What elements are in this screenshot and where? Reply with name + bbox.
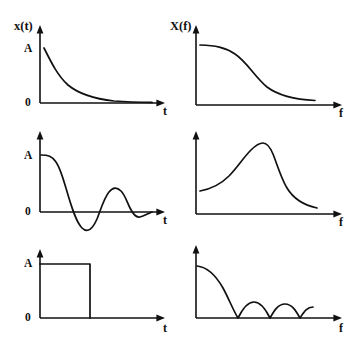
y-axis-arrow-icon — [37, 249, 44, 258]
panel-resonance-peak — [175, 116, 351, 234]
curve-rectangular-pulse — [40, 264, 90, 318]
ytick-label-amplitude-row3: A — [24, 258, 32, 270]
xaxis-label-t-row2: t — [163, 214, 167, 226]
curve-lorentzian-rolloff — [200, 45, 315, 101]
xaxis-label-f-row3: f — [339, 322, 343, 334]
panel-lorentzian-rolloff — [175, 0, 351, 116]
fourier-transform-pairs-figure: x(t) X(f) A 0 t f — [0, 0, 351, 349]
ytick-label-zero-row2: 0 — [25, 206, 31, 218]
ytick-label-amplitude-row1: A — [24, 43, 32, 55]
curve-damped-oscillation — [41, 155, 152, 230]
curve-resonance-peak — [200, 143, 317, 208]
xaxis-label-f-row2: f — [339, 216, 343, 228]
panel-rectangular-pulse — [0, 234, 175, 349]
ytick-label-zero-row1: 0 — [25, 97, 31, 109]
y-axis-arrow-icon — [37, 25, 44, 34]
panel-sinc-magnitude — [175, 234, 351, 349]
ytick-label-zero-row3: 0 — [25, 312, 31, 324]
xaxis-label-t-row3: t — [163, 322, 167, 334]
y-axis-arrow-icon — [37, 131, 44, 140]
ytick-label-amplitude-row2: A — [24, 150, 32, 162]
curve-sinc-magnitude — [197, 266, 313, 318]
y-axis-arrow-icon — [193, 245, 200, 254]
y-axis-arrow-icon — [193, 25, 200, 34]
y-axis-arrow-icon — [193, 131, 200, 140]
curve-exponential-decay — [44, 48, 152, 102]
